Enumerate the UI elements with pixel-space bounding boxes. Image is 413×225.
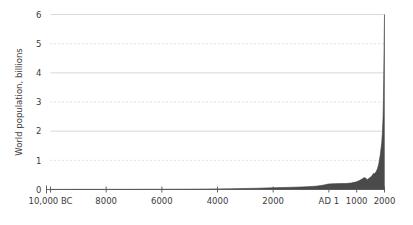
x-tick-label-2000: 2000 (262, 196, 284, 206)
y-tick-label-2: 2 (36, 126, 41, 136)
chart-canvas: 0123456 10,000 BC8000600040002000AD 1100… (0, 0, 413, 225)
y-tick-label-0: 0 (36, 185, 41, 195)
x-tick-label-AD-1: AD 1 (319, 196, 339, 206)
y-tick-label-4: 4 (36, 68, 41, 78)
y-tick-label-3: 3 (36, 97, 41, 107)
x-tick-label-6000: 6000 (151, 196, 173, 206)
x-tick-label-10-000-BC: 10,000 BC (28, 196, 72, 206)
y-tick-label-5: 5 (36, 39, 41, 49)
world-population-chart: 0123456 10,000 BC8000600040002000AD 1100… (0, 0, 413, 225)
x-tick-label-4000: 4000 (207, 196, 229, 206)
x-tick-label-1000: 1000 (346, 196, 368, 206)
x-tick-label-2000: 2000 (374, 196, 396, 206)
x-tick-label-8000: 8000 (95, 196, 117, 206)
y-axis-title: World population, billions (14, 48, 24, 156)
chart-background (0, 0, 413, 225)
y-tick-label-6: 6 (36, 10, 41, 20)
y-tick-label-1: 1 (36, 156, 41, 166)
